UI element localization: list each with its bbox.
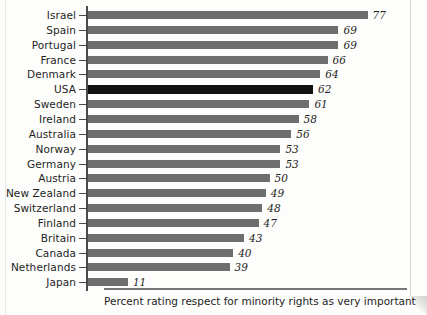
axis-tick bbox=[79, 164, 87, 165]
x-axis-caption: Percent rating respect for minority righ… bbox=[104, 294, 410, 308]
bar-value-label: 69 bbox=[343, 23, 356, 37]
bar bbox=[88, 70, 320, 78]
bar-value-label: 77 bbox=[373, 8, 386, 22]
axis-tick bbox=[79, 89, 87, 90]
category-label: France bbox=[0, 53, 76, 68]
category-label: Japan bbox=[0, 275, 76, 290]
bar-row: Norway53 bbox=[0, 142, 427, 157]
bar-row: Canada40 bbox=[0, 246, 427, 261]
axis-tick bbox=[79, 30, 87, 31]
bar-value-label: 53 bbox=[285, 142, 298, 156]
bar-row: Spain69 bbox=[0, 23, 427, 38]
axis-tick bbox=[79, 149, 87, 150]
bar bbox=[88, 278, 128, 286]
axis-tick bbox=[79, 253, 87, 254]
category-label: Britain bbox=[0, 231, 76, 246]
caption-divider bbox=[104, 288, 407, 290]
bar-row: Switzerland48 bbox=[0, 201, 427, 216]
category-label: USA bbox=[0, 82, 76, 97]
bar bbox=[88, 174, 270, 182]
bar-row: Ireland58 bbox=[0, 112, 427, 127]
category-label: Norway bbox=[0, 142, 76, 157]
bar-value-label: 49 bbox=[271, 186, 284, 200]
bar-chart-plot-area: Israel77Spain69Portugal69France66Denmark… bbox=[0, 0, 427, 315]
bar-row: Netherlands39 bbox=[0, 260, 427, 275]
axis-tick bbox=[79, 15, 87, 16]
bar-value-label: 69 bbox=[343, 38, 356, 52]
bar bbox=[88, 56, 328, 64]
bar bbox=[88, 160, 280, 168]
axis-tick bbox=[79, 104, 87, 105]
axis-tick bbox=[79, 74, 87, 75]
category-label: Austria bbox=[0, 171, 76, 186]
category-label: Portugal bbox=[0, 38, 76, 53]
axis-tick bbox=[79, 45, 87, 46]
bar bbox=[88, 130, 291, 138]
bar bbox=[88, 189, 266, 197]
bar-value-label: 40 bbox=[238, 246, 251, 260]
bar-row: Finland47 bbox=[0, 216, 427, 231]
bar-highlighted bbox=[88, 85, 313, 94]
bar bbox=[88, 204, 262, 212]
category-label: Netherlands bbox=[0, 260, 76, 275]
category-label: Spain bbox=[0, 23, 76, 38]
axis-tick bbox=[79, 267, 87, 268]
category-label: Switzerland bbox=[0, 201, 76, 216]
axis-tick bbox=[79, 238, 87, 239]
bar-value-label: 62 bbox=[318, 82, 331, 96]
category-label: Israel bbox=[0, 8, 76, 23]
category-label: Finland bbox=[0, 216, 76, 231]
axis-tick bbox=[79, 208, 87, 209]
axis-tick bbox=[79, 178, 87, 179]
bar bbox=[88, 145, 280, 153]
bar bbox=[88, 219, 259, 227]
bar bbox=[88, 41, 338, 49]
bar-row: Britain43 bbox=[0, 231, 427, 246]
axis-tick bbox=[79, 134, 87, 135]
bar bbox=[88, 11, 368, 19]
bar-value-label: 61 bbox=[314, 97, 327, 111]
bar-value-label: 66 bbox=[333, 53, 346, 67]
axis-tick bbox=[79, 282, 87, 283]
bar-row: Sweden61 bbox=[0, 97, 427, 112]
bar-row: Austria50 bbox=[0, 171, 427, 186]
bar bbox=[88, 115, 299, 123]
bar bbox=[88, 26, 338, 34]
bar-row: France66 bbox=[0, 53, 427, 68]
bar-row: USA62 bbox=[0, 82, 427, 97]
bar-value-label: 48 bbox=[267, 201, 280, 215]
bar-value-label: 39 bbox=[235, 260, 248, 274]
bar-value-label: 47 bbox=[264, 216, 277, 230]
bar-row: Germany53 bbox=[0, 157, 427, 172]
bar bbox=[88, 234, 244, 242]
bar-value-label: 53 bbox=[285, 157, 298, 171]
bar-value-label: 58 bbox=[304, 112, 317, 126]
bar-value-label: 43 bbox=[249, 231, 262, 245]
category-label: Australia bbox=[0, 127, 76, 142]
bar-value-label: 50 bbox=[275, 171, 288, 185]
axis-tick bbox=[79, 119, 87, 120]
bar-row: New Zealand49 bbox=[0, 186, 427, 201]
bar-row: Portugal69 bbox=[0, 38, 427, 53]
category-label: Ireland bbox=[0, 112, 76, 127]
bar bbox=[88, 249, 233, 257]
bar-row: Denmark64 bbox=[0, 67, 427, 82]
category-label: Denmark bbox=[0, 67, 76, 82]
bar bbox=[88, 263, 230, 271]
bar-value-label: 56 bbox=[296, 127, 309, 141]
chart-page: Israel77Spain69Portugal69France66Denmark… bbox=[0, 0, 427, 315]
bar-value-label: 64 bbox=[325, 67, 338, 81]
axis-tick bbox=[79, 60, 87, 61]
bar-row: Australia56 bbox=[0, 127, 427, 142]
category-label: New Zealand bbox=[0, 186, 76, 201]
axis-tick bbox=[79, 223, 87, 224]
bar bbox=[88, 100, 309, 108]
category-label: Germany bbox=[0, 157, 76, 172]
axis-tick bbox=[79, 193, 87, 194]
bar-row: Israel77 bbox=[0, 8, 427, 23]
category-label: Sweden bbox=[0, 97, 76, 112]
category-label: Canada bbox=[0, 246, 76, 261]
